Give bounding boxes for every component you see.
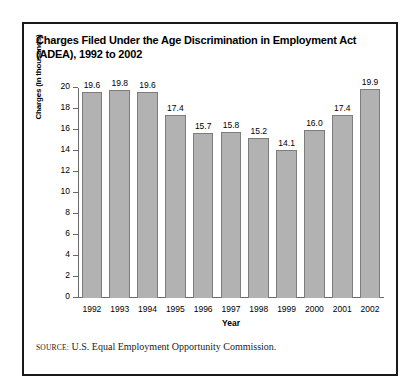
figure-container: Charges Filed Under the Age Discriminati… (22, 22, 398, 376)
bar-group[interactable]: 16.02000 (301, 88, 329, 298)
bar[interactable] (360, 89, 381, 298)
bar-group[interactable]: 15.81997 (217, 88, 245, 298)
y-tick-label: 16 (61, 123, 70, 133)
bar-series: 19.6199219.8199319.6199417.4199515.71996… (78, 88, 384, 298)
bar[interactable] (276, 150, 297, 298)
bar-value-label: 16.0 (301, 118, 329, 128)
y-tick-label: 0 (65, 291, 70, 301)
bar-group[interactable]: 15.71996 (189, 88, 217, 298)
chart-title: Charges Filed Under the Age Discriminati… (36, 33, 386, 61)
bar-value-label: 17.4 (161, 103, 189, 113)
plot-canvas: 20181614121086420 19.6199219.8199319.619… (78, 88, 384, 298)
bar-value-label: 17.4 (328, 103, 356, 113)
x-tick-label: 2002 (350, 304, 390, 314)
bar-group[interactable]: 19.61992 (78, 88, 106, 298)
bar-group[interactable]: 17.42001 (328, 88, 356, 298)
y-tick-label: 2 (65, 270, 70, 280)
bar-value-label: 15.2 (245, 126, 273, 136)
y-tick: 18 (44, 108, 78, 109)
y-tick: 4 (44, 255, 78, 256)
y-tick-label: 4 (65, 249, 70, 259)
bar-value-label: 15.8 (217, 120, 245, 130)
bar-value-label: 15.7 (189, 121, 217, 131)
y-tick: 16 (44, 129, 78, 130)
y-tick-label: 10 (61, 186, 70, 196)
source-note: SOURCE: U.S. Equal Employment Opportunit… (36, 341, 386, 352)
y-tick: 0 (44, 297, 78, 298)
bar[interactable] (221, 132, 242, 298)
bar-group[interactable]: 19.81993 (106, 88, 134, 298)
source-label: SOURCE: (36, 343, 69, 352)
y-tick-label: 14 (61, 144, 70, 154)
y-tick: 14 (44, 150, 78, 151)
y-tick: 10 (44, 192, 78, 193)
bar[interactable] (248, 138, 269, 298)
bar-value-label: 19.8 (106, 78, 134, 88)
y-tick: 12 (44, 171, 78, 172)
bar[interactable] (109, 90, 130, 298)
y-tick-label: 12 (61, 165, 70, 175)
bar-value-label: 19.6 (134, 80, 162, 90)
y-tick-label: 20 (61, 81, 70, 91)
bar[interactable] (193, 133, 214, 298)
bar-group[interactable]: 19.92002 (356, 88, 384, 298)
bar-value-label: 14.1 (273, 138, 301, 148)
bar-group[interactable]: 15.21998 (245, 88, 273, 298)
bar[interactable] (82, 92, 103, 298)
y-tick: 8 (44, 213, 78, 214)
bar[interactable] (304, 130, 325, 298)
y-tick-label: 6 (65, 228, 70, 238)
bar-value-label: 19.6 (78, 80, 106, 90)
source-text: U.S. Equal Employment Opportunity Commis… (72, 341, 277, 352)
plot-area: Charges (in thousands) 20181614121086420… (36, 82, 388, 332)
y-tick-label: 18 (61, 102, 70, 112)
bar-group[interactable]: 14.11999 (273, 88, 301, 298)
bar[interactable] (165, 115, 186, 298)
bar-value-label: 19.9 (356, 77, 384, 87)
y-tick: 20 (44, 87, 78, 88)
bar-group[interactable]: 19.61994 (134, 88, 162, 298)
bar[interactable] (137, 92, 158, 298)
bar[interactable] (332, 115, 353, 298)
y-axis-title: Charges (in thousands) (34, 12, 46, 142)
x-axis-title: Year (78, 318, 384, 328)
y-tick: 2 (44, 276, 78, 277)
bar-group[interactable]: 17.41995 (161, 88, 189, 298)
y-tick-label: 8 (65, 207, 70, 217)
y-tick: 6 (44, 234, 78, 235)
